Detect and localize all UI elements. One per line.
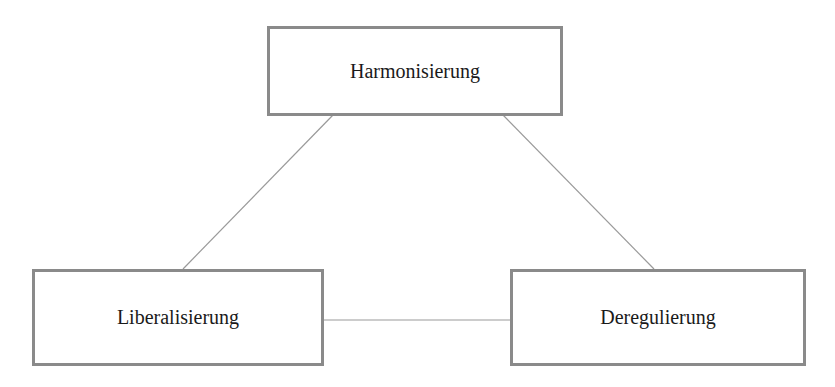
node-harmonisierung: Harmonisierung <box>267 26 563 116</box>
node-label: Deregulierung <box>600 306 716 329</box>
edge-harmonisierung-liberalisierung <box>183 115 333 269</box>
node-label: Liberalisierung <box>117 306 239 329</box>
node-label: Harmonisierung <box>350 60 480 83</box>
node-liberalisierung: Liberalisierung <box>32 269 324 366</box>
node-deregulierung: Deregulierung <box>510 269 806 366</box>
diagram-canvas: Harmonisierung Liberalisierung Deregulie… <box>0 0 835 387</box>
edge-harmonisierung-deregulierung <box>503 115 654 269</box>
